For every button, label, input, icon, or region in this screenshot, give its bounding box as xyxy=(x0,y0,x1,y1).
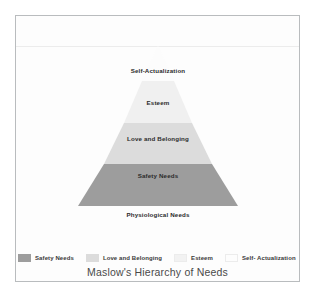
pyramid-tier-love-and-belonging xyxy=(104,123,212,164)
screenshot-canvas: Self-Actualization Esteem Love and Belon… xyxy=(0,0,316,294)
pyramid-label-love-and-belonging: Love and Belonging xyxy=(127,135,189,142)
pyramid-label-self-actualization: Self-Actualization xyxy=(131,67,186,74)
pyramid-label-safety-needs: Safety Needs xyxy=(138,172,179,179)
legend-item-love-and-belonging[interactable]: Love and Belonging xyxy=(86,254,162,262)
legend-swatch-icon xyxy=(174,254,187,262)
chart-title: Maslow's Hierarchy of Needs xyxy=(16,266,299,278)
legend-label: Esteem xyxy=(191,255,213,261)
legend-swatch-icon xyxy=(86,254,99,262)
legend-item-self-actualization[interactable]: Self- Actualization xyxy=(225,254,296,262)
legend-swatch-icon xyxy=(18,254,31,262)
pyramid-tier-safety-needs xyxy=(78,164,238,206)
legend-label: Self- Actualization xyxy=(242,255,296,261)
pyramid-svg xyxy=(16,16,299,241)
pyramid-diagram: Self-Actualization Esteem Love and Belon… xyxy=(16,16,299,241)
legend-item-safety-needs[interactable]: Safety Needs xyxy=(18,254,74,262)
legend-item-esteem[interactable]: Esteem xyxy=(174,254,213,262)
pyramid-label-esteem: Esteem xyxy=(147,99,170,106)
legend-label: Safety Needs xyxy=(35,255,74,261)
legend-label: Love and Belonging xyxy=(103,255,162,261)
pyramid-label-physiological-needs: Physiological Needs xyxy=(126,211,189,218)
legend-swatch-icon xyxy=(225,254,238,262)
chart-legend: Safety Needs Love and Belonging Esteem S… xyxy=(18,251,298,264)
pyramid-tier-self-actualization xyxy=(142,46,174,81)
